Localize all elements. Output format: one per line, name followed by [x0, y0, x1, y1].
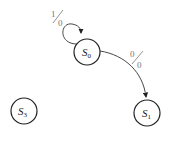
transition-label-1-0: 1 0 [51, 9, 63, 28]
state-s1: S1 [134, 100, 160, 126]
svg-text:0: 0 [130, 49, 135, 59]
svg-text:0: 0 [137, 60, 142, 70]
transition-s0-to-s1 [100, 51, 146, 97]
transition-s0-self-loop [63, 24, 81, 44]
svg-text:1: 1 [51, 9, 56, 19]
svg-text:0: 0 [58, 18, 63, 28]
state-diagram: 1 0 0 0 S0 S1 S3 [0, 0, 173, 141]
state-s0: S0 [74, 39, 100, 65]
state-s3: S3 [11, 98, 37, 124]
